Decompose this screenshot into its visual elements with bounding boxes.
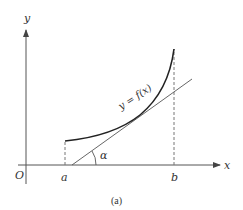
figure-caption: (a) <box>111 195 122 207</box>
angle-arc <box>92 151 96 165</box>
y-axis-label: y <box>23 12 31 25</box>
point-a-label: a <box>61 171 68 184</box>
angle-alpha-label: α <box>100 149 108 162</box>
curve-f <box>65 49 174 141</box>
x-axis-label: x <box>224 159 231 172</box>
origin-label: O <box>15 169 24 182</box>
diagram-canvas: y x O a b α y = f(x) (a) <box>0 0 243 210</box>
point-b-label: b <box>171 171 178 184</box>
